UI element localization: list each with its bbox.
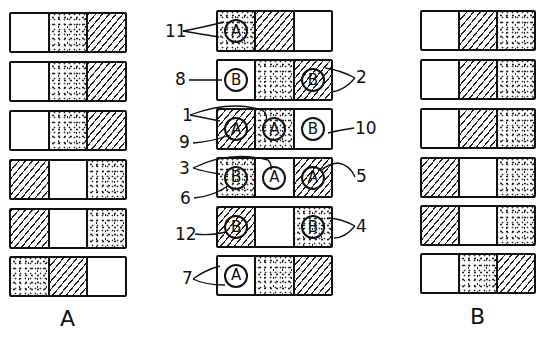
strip-c-3: A A B [216, 108, 333, 150]
cell [496, 255, 534, 292]
cell [422, 12, 458, 49]
circled-b-marker: B [301, 117, 325, 141]
cell: A [218, 257, 254, 294]
cell [496, 207, 534, 244]
strip-b-5 [420, 205, 536, 246]
circled-a-marker: A [224, 117, 248, 141]
strip-c-4: B A A [216, 157, 333, 198]
ref-number-3: 3 [179, 160, 190, 177]
cell [48, 210, 87, 247]
cell [496, 61, 534, 98]
cell [86, 14, 125, 51]
cell [11, 210, 48, 247]
ref-number-1: 1 [182, 107, 193, 124]
cell: B [293, 208, 331, 246]
ref-number-11: 11 [165, 23, 187, 40]
cell [254, 257, 292, 294]
ref-number-10: 10 [355, 120, 377, 137]
circled-b-marker: B [301, 215, 325, 239]
strip-b-3 [420, 108, 536, 149]
strip-b-4 [420, 157, 536, 198]
cell [422, 207, 458, 244]
ref-number-7: 7 [182, 270, 193, 287]
cell [422, 110, 458, 147]
cell [458, 207, 496, 244]
cell [496, 159, 534, 196]
strip-b-1 [420, 10, 536, 51]
strip-a-3 [9, 110, 127, 151]
strip-a-1 [9, 12, 127, 53]
cell [254, 61, 292, 99]
cell: A [293, 159, 331, 196]
circled-a-marker: A [262, 166, 286, 190]
circled-a-marker: A [301, 166, 325, 190]
cell [48, 14, 87, 51]
cell [48, 112, 87, 149]
cell [11, 63, 48, 100]
circled-a-marker: A [262, 117, 286, 141]
cell: A [218, 110, 254, 148]
strip-b-2 [420, 59, 536, 100]
cell: A [254, 159, 292, 196]
cell [86, 161, 125, 198]
cell: B [218, 159, 254, 196]
circled-a-marker: A [224, 264, 248, 288]
cell [458, 159, 496, 196]
cell [86, 258, 125, 295]
cell [86, 112, 125, 149]
circled-b-marker: B [224, 215, 248, 239]
ref-number-2: 2 [356, 69, 367, 86]
cell [11, 258, 48, 295]
ref-number-8: 8 [175, 71, 186, 88]
cell [48, 161, 87, 198]
column-a-label: A [60, 306, 75, 331]
cell [458, 61, 496, 98]
cell [458, 12, 496, 49]
cell [11, 161, 48, 198]
strip-c-2: B B [216, 59, 333, 101]
cell: A [218, 12, 254, 50]
strip-c-1: A [216, 10, 333, 52]
strip-a-4 [9, 159, 127, 200]
cell [293, 257, 331, 294]
strip-a-6 [9, 256, 127, 297]
cell [422, 255, 458, 292]
cell: B [218, 61, 254, 99]
strip-c-6: A [216, 255, 333, 296]
ref-number-12: 12 [175, 226, 197, 243]
cell [293, 12, 331, 50]
strip-c-5: B B [216, 206, 333, 248]
cell [11, 112, 48, 149]
cell [458, 255, 496, 292]
cell [254, 208, 292, 246]
cell [422, 61, 458, 98]
cell: B [218, 208, 254, 246]
cell [496, 12, 534, 49]
cell: B [293, 61, 331, 99]
cell [48, 63, 87, 100]
circled-b-marker: B [224, 166, 248, 190]
strip-a-2 [9, 61, 127, 102]
cell [254, 12, 292, 50]
strip-a-5 [9, 208, 127, 249]
ref-number-4: 4 [356, 218, 367, 235]
cell [86, 210, 125, 247]
circled-b-marker: B [224, 68, 248, 92]
cell [86, 63, 125, 100]
cell: A [254, 110, 292, 148]
cell [458, 110, 496, 147]
strip-b-6 [420, 253, 536, 294]
cell [496, 110, 534, 147]
column-b-label: B [470, 304, 485, 329]
cell [422, 159, 458, 196]
ref-number-5: 5 [356, 168, 367, 185]
cell [11, 14, 48, 51]
ref-number-9: 9 [179, 134, 190, 151]
circled-a-marker: A [224, 19, 248, 43]
cell [48, 258, 87, 295]
cell: B [293, 110, 331, 148]
circled-b-marker: B [301, 68, 325, 92]
ref-number-6: 6 [180, 190, 191, 207]
